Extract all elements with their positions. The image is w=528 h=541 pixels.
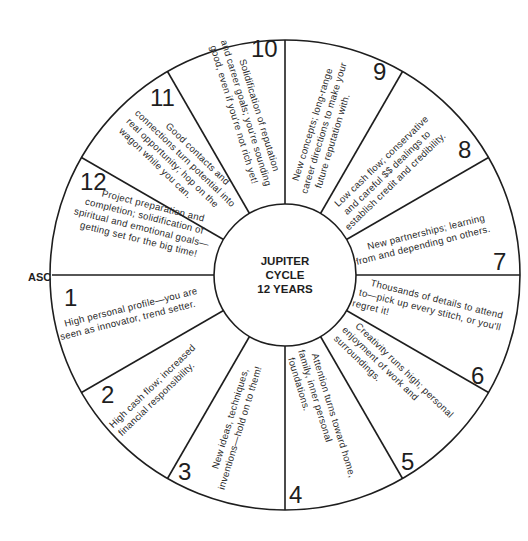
ascendant-label: ASC bbox=[28, 271, 51, 283]
house-5-text: Creativity runs high; personal enjoyment… bbox=[332, 315, 456, 437]
house-number-7: 7 bbox=[493, 248, 506, 275]
house-number-4: 4 bbox=[289, 481, 302, 508]
house-number-5: 5 bbox=[401, 448, 414, 475]
house-8-line-2: and careful $$ dealings to bbox=[341, 128, 432, 217]
house-number-9: 9 bbox=[373, 58, 386, 85]
house-2-line-1: High cash flow; increased bbox=[107, 342, 198, 430]
house-number-6: 6 bbox=[471, 362, 484, 389]
jupiter-cycle-wheel: JUPITER CYCLE 12 YEARS ASC 1 2 3 4 5 6 7… bbox=[0, 0, 528, 541]
center-line-2: CYCLE bbox=[266, 269, 305, 281]
center-line-3: 12 YEARS bbox=[257, 283, 313, 295]
house-number-3: 3 bbox=[178, 458, 191, 485]
house-number-2: 2 bbox=[101, 381, 114, 408]
house-number-11: 11 bbox=[150, 84, 175, 111]
house-1-text: High personal profile—you are seen as in… bbox=[56, 285, 201, 342]
house-2-line-2: financial responsibility. bbox=[116, 359, 197, 437]
center-line-1: JUPITER bbox=[261, 255, 310, 267]
house-number-1: 1 bbox=[64, 284, 77, 311]
house-4-text: Attention turns toward home, family, inn… bbox=[285, 345, 358, 486]
house-3-text: New ideas, techniques, inventions—hold o… bbox=[204, 361, 264, 490]
house-9-text: New concepts; long-range career directio… bbox=[287, 57, 361, 198]
house-7-text: New partnerships; learning from and depe… bbox=[352, 211, 491, 267]
house-2-text: High cash flow; increased financial resp… bbox=[107, 342, 206, 439]
house-number-10: 10 bbox=[251, 35, 278, 62]
house-number-8: 8 bbox=[458, 136, 471, 163]
